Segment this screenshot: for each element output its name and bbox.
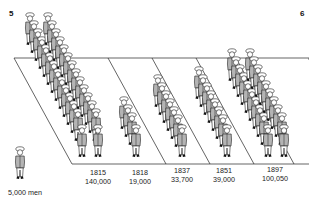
- value-label: 140,000: [80, 177, 116, 186]
- year-label: 1897: [255, 165, 295, 174]
- column-label-1815: 1815 140,000: [80, 168, 116, 186]
- year-label: 1851: [206, 166, 242, 175]
- column-1897-figures: [227, 49, 288, 157]
- column-1837-figures: [153, 75, 186, 157]
- legend-label: 5,000 men: [8, 188, 42, 197]
- legend-soldier-icon: [15, 147, 24, 179]
- value-label: 19,000: [122, 177, 158, 186]
- year-label: 1818: [122, 168, 158, 177]
- column-label-1851: 1851 39,000: [206, 166, 242, 184]
- column-1851-figures: [194, 67, 231, 157]
- column-1815-figures: [25, 13, 102, 157]
- year-label: 1837: [164, 166, 200, 175]
- value-label: 39,000: [206, 175, 242, 184]
- column-label-1897: 1897 100,050: [255, 165, 295, 183]
- column-1818-figures: [119, 97, 140, 157]
- value-label: 33,700: [164, 175, 200, 184]
- column-label-1837: 1837 33,700: [164, 166, 200, 184]
- column-label-1818: 1818 19,000: [122, 168, 158, 186]
- value-label: 100,050: [255, 174, 295, 183]
- year-label: 1815: [80, 168, 116, 177]
